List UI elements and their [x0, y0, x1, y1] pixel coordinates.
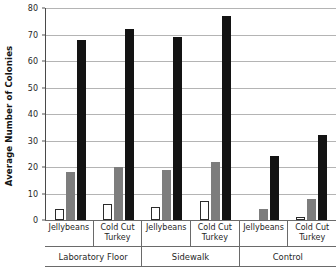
bar-white — [55, 209, 64, 220]
category-label: Jellybeans — [239, 221, 288, 246]
bar-white — [151, 207, 160, 220]
y-tick-label: 80 — [28, 4, 38, 13]
y-tick-label: 30 — [28, 136, 38, 145]
bar-chart: Average Number of Colonies 0102030405060… — [0, 0, 336, 275]
bar-subgroup — [239, 8, 287, 220]
category-label: Jellybeans — [45, 221, 93, 246]
category-label: Cold Cut Turkey — [93, 221, 142, 246]
y-tick-label: 10 — [28, 189, 38, 198]
bar-gray — [66, 172, 75, 220]
bar-gray — [211, 162, 220, 220]
group-label: Laboratory Floor — [45, 247, 141, 266]
category-label: Cold Cut Turkey — [190, 221, 239, 246]
bar-groups — [46, 8, 336, 220]
bar-gray — [259, 209, 268, 220]
y-tick-label: 70 — [28, 30, 38, 39]
bar-gray — [307, 199, 316, 220]
group-label: Control — [239, 247, 336, 266]
bar-black — [270, 156, 279, 220]
group-label: Sidewalk — [141, 247, 238, 266]
category-label: Cold Cut Turkey — [287, 221, 336, 246]
bar-subgroup — [94, 8, 142, 220]
y-axis-title-text: Average Number of Colonies — [4, 46, 14, 187]
y-axis-title: Average Number of Colonies — [0, 0, 18, 232]
bar-white — [200, 201, 209, 220]
category-label-band: JellybeansCold Cut TurkeyJellybeansCold … — [45, 220, 336, 247]
bar-black — [222, 16, 231, 220]
y-tick-label: 40 — [28, 110, 38, 119]
bar-subgroup — [143, 8, 191, 220]
bar-black — [173, 37, 182, 220]
y-tick-label: 0 — [33, 216, 38, 225]
bar-group — [239, 8, 336, 220]
category-label: Jellybeans — [141, 221, 190, 246]
bar-subgroup — [288, 8, 336, 220]
bar-white — [103, 204, 112, 220]
bar-gray — [114, 167, 123, 220]
bar-subgroup — [191, 8, 239, 220]
bar-subgroup — [46, 8, 94, 220]
bar-gray — [162, 170, 171, 220]
bar-group — [46, 8, 143, 220]
bar-black — [318, 135, 327, 220]
y-tick-label: 20 — [28, 163, 38, 172]
bar-group — [143, 8, 240, 220]
bar-black — [125, 29, 134, 220]
bar-black — [77, 40, 86, 220]
y-tick-label: 50 — [28, 83, 38, 92]
y-axis-tick-labels: 01020304050607080 — [20, 8, 42, 220]
group-label-band: Laboratory FloorSidewalkControl — [45, 247, 336, 267]
y-tick-label: 60 — [28, 57, 38, 66]
plot-wrapper: 01020304050607080 — [20, 8, 336, 220]
plot-area — [45, 8, 336, 221]
